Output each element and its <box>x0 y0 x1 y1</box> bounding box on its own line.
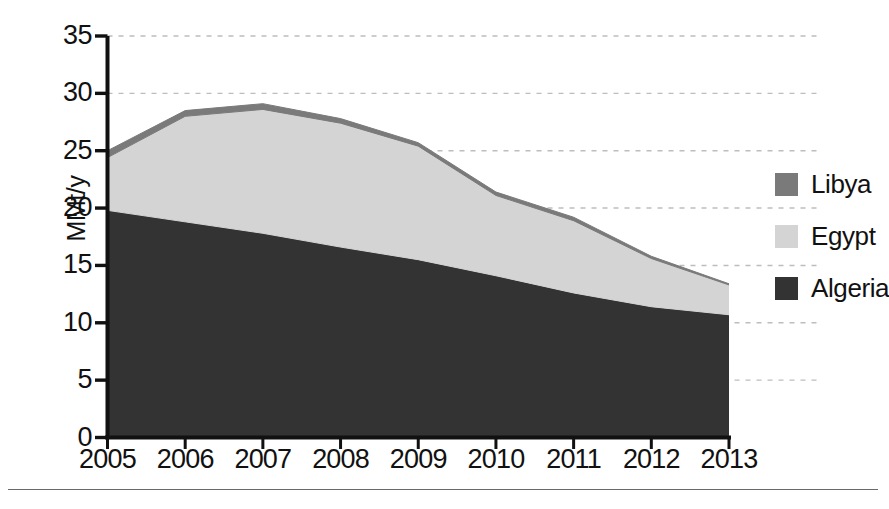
y-axis-tick-label: 5 <box>36 366 92 393</box>
y-axis-tick-label: 30 <box>36 79 92 106</box>
legend-swatch-icon <box>775 173 798 196</box>
legend-swatch-icon <box>775 277 798 300</box>
legend-swatch-icon <box>775 225 798 248</box>
y-axis-tick-label: 10 <box>36 309 92 336</box>
legend-item-libya[interactable]: Libya <box>775 158 885 210</box>
y-axis-tick-labels: 35302520151050 <box>30 0 92 509</box>
legend-label: Egypt <box>811 223 876 249</box>
chart-legend: LibyaEgyptAlgeria <box>775 158 885 314</box>
legend-item-egypt[interactable]: Egypt <box>775 210 885 262</box>
legend-label: Algeria <box>811 275 889 301</box>
legend-item-algeria[interactable]: Algeria <box>775 262 885 314</box>
footer-divider <box>8 489 878 490</box>
y-axis-tick-label: 25 <box>36 137 92 164</box>
x-axis-tick-label: 2013 <box>681 444 777 474</box>
y-axis-tick-label: 15 <box>36 251 92 278</box>
y-axis-tick-label: 20 <box>36 194 92 221</box>
y-axis-tick-label: 35 <box>36 22 92 49</box>
legend-label: Libya <box>811 171 871 197</box>
area-series-group <box>108 104 730 438</box>
